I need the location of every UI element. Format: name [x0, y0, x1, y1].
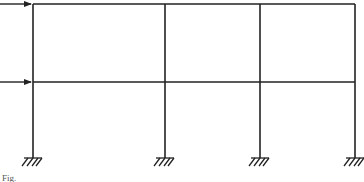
fixed-support-2	[154, 158, 174, 166]
load-arrows	[0, 4, 31, 82]
frame-diagram	[0, 0, 364, 182]
figure-caption: Fig.	[2, 174, 16, 182]
fixed-support-1	[22, 158, 42, 166]
beams	[33, 4, 355, 82]
fixed-support-3	[249, 158, 269, 166]
columns	[33, 4, 355, 158]
fixed-support-4	[344, 158, 364, 166]
